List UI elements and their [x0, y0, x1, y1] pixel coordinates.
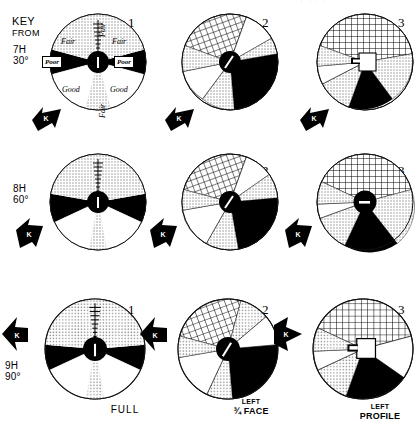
- wheel-9h-34face: [176, 297, 280, 401]
- key-arrow-letter: K: [152, 332, 157, 339]
- wheel-svg-r2c3: [315, 152, 415, 252]
- row-7h-degree: 30°: [13, 55, 29, 66]
- key-arrow-r1c1: K: [30, 104, 64, 132]
- key-arrow-letter: K: [14, 332, 19, 339]
- caption-full-text: FULL: [111, 404, 139, 415]
- row-9h-degree: 90°: [5, 371, 21, 382]
- wheel-8h-profile: [315, 152, 415, 252]
- row-label-7h: 7H 30°: [13, 44, 29, 66]
- wheel-svg-r1c2: [180, 12, 280, 112]
- zone-label-fair-bottom: Fair: [99, 104, 107, 118]
- caption-profile-text: PROFILE: [360, 411, 400, 421]
- row-7h-hour: 7H: [13, 44, 29, 55]
- wheel-8h-full: [48, 152, 148, 252]
- key-arrow-letter: K: [43, 115, 48, 122]
- zone-label-fair-top: Fair: [99, 23, 107, 37]
- key-arrow-letter: K: [283, 331, 288, 338]
- wheel-svg-r3c3: [311, 297, 415, 401]
- wheel-7h-profile: [315, 12, 415, 112]
- wheel-9h-profile: [311, 297, 415, 401]
- wheel-svg-r2c1: [48, 152, 148, 252]
- caption-profile-top: LEFT: [340, 403, 420, 411]
- wheel-svg-r1c3: [315, 12, 415, 112]
- key-arrow-r1c2: K: [163, 104, 197, 132]
- cropped-top-text: · ·· ·: [300, 0, 327, 6]
- zone-label-poor-left: Poor: [42, 56, 62, 68]
- key-arrow-r2c2: K: [148, 216, 180, 250]
- key-arrow-r3c2: K: [139, 315, 169, 353]
- wheel-svg-r2c2: [180, 152, 280, 252]
- key-arrow-letter: K: [311, 115, 316, 122]
- key-arrow-letter: K: [295, 231, 300, 238]
- zone-label-fair-upper-right: Fair: [112, 38, 126, 46]
- zone-label-poor-right: Poor: [114, 56, 134, 68]
- key-from-heading: KEY FROM: [12, 16, 40, 39]
- key-arrow-r3c1: K: [2, 315, 30, 353]
- wheel-8h-34face: [180, 152, 280, 252]
- key-arrow-letter: K: [160, 231, 165, 238]
- wheel-svg-r3c2: [176, 297, 280, 401]
- key-arrow-r3c3: K: [272, 315, 304, 353]
- wheel-7h-34face: [180, 12, 280, 112]
- lighting-quality-chart: · ·· · KEY FROM 7H 30° 8H 60° 9H 90° 1 2…: [0, 0, 420, 440]
- zone-label-fair-upper-left: Fair: [61, 38, 75, 46]
- key-arrow-r2c1: K: [14, 216, 46, 250]
- row-8h-degree: 60°: [13, 194, 29, 205]
- key-arrow-r1c3: K: [298, 104, 332, 132]
- caption-34face-text: ¾ FACE: [233, 406, 268, 416]
- zone-label-good-right: Good: [110, 86, 128, 94]
- row-8h-hour: 8H: [13, 183, 29, 194]
- key-arrow-letter: K: [26, 231, 31, 238]
- zone-label-good-left: Good: [62, 86, 80, 94]
- column-caption-profile: LEFT PROFILE: [340, 403, 420, 421]
- key-word: KEY: [12, 15, 35, 27]
- wheel-svg-r3c1: [43, 297, 147, 401]
- row-label-8h: 8H 60°: [13, 183, 29, 205]
- column-caption-full: FULL: [90, 405, 160, 415]
- from-word: FROM: [12, 28, 40, 39]
- row-label-9h: 9H 90°: [5, 360, 21, 382]
- wheel-9h-full: [43, 297, 147, 401]
- row-9h-hour: 9H: [5, 360, 21, 371]
- key-arrow-r2c3: K: [283, 216, 315, 250]
- key-arrow-letter: K: [176, 115, 181, 122]
